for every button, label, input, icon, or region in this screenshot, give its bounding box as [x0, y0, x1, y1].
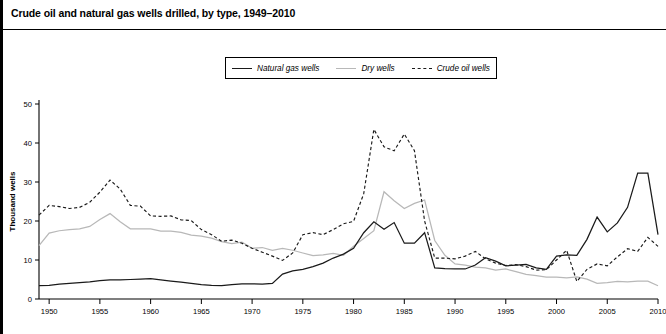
- x-tick-label: 2010: [650, 307, 666, 316]
- legend-item-crude-oil-wells: Crude oil wells: [412, 64, 490, 73]
- x-tick-label: 2005: [599, 307, 616, 316]
- source-strip: [3, 327, 666, 334]
- series-group: [39, 129, 658, 285]
- legend-swatch-solid-icon: [232, 68, 252, 69]
- legend-swatch-solid-gray-icon: [336, 68, 356, 69]
- x-tick-label: 2000: [548, 307, 565, 316]
- x-tick-label: 1955: [91, 307, 108, 316]
- x-tick-label: 1975: [294, 307, 311, 316]
- x-tick-label: 1950: [41, 307, 58, 316]
- y-tick-label: 50: [24, 100, 32, 109]
- title-bar: Crude oil and natural gas wells drilled,…: [3, 0, 666, 30]
- y-tick-label: 20: [24, 217, 32, 226]
- legend-swatch-dashed-icon: [412, 68, 432, 69]
- y-tick-label: 40: [24, 139, 32, 148]
- y-tick-label: 10: [24, 256, 32, 265]
- axis-group: 01020304050Thousand wells195019551960196…: [8, 100, 666, 316]
- legend-label: Natural gas wells: [257, 64, 319, 73]
- y-axis-label: Thousand wells: [8, 171, 17, 232]
- legend-item-dry-wells: Dry wells: [336, 64, 394, 73]
- x-tick-label: 1985: [396, 307, 413, 316]
- y-tick-label: 30: [24, 178, 32, 187]
- chart-page: Crude oil and natural gas wells drilled,…: [0, 0, 666, 334]
- legend-label: Crude oil wells: [437, 64, 490, 73]
- x-tick-label: 1990: [447, 307, 464, 316]
- page-title: Crude oil and natural gas wells drilled,…: [11, 7, 295, 19]
- x-tick-label: 1980: [345, 307, 362, 316]
- y-tick-label: 0: [28, 295, 32, 304]
- x-tick-label: 1995: [497, 307, 514, 316]
- x-tick-label: 1965: [193, 307, 210, 316]
- x-tick-label: 1960: [142, 307, 159, 316]
- legend-item-natural-gas-wells: Natural gas wells: [232, 64, 319, 73]
- series-line-crude-oil-wells: [39, 129, 658, 281]
- x-tick-label: 1970: [244, 307, 261, 316]
- legend-label: Dry wells: [361, 64, 394, 73]
- legend: Natural gas wells Dry wells Crude oil we…: [225, 57, 497, 79]
